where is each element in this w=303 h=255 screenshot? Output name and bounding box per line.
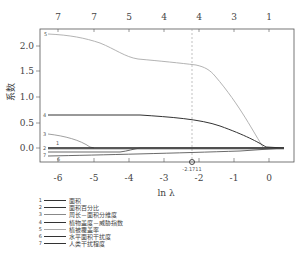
plot-frame [40, 29, 294, 162]
legend-label: 面积 [69, 197, 81, 204]
y-axis: 2.0 1.5 1.0 0.5 0.0 系数 [5, 41, 40, 153]
y-tick-label: 0.5 [20, 118, 35, 128]
legend-line-swatch [44, 214, 66, 215]
legend-number: 7 [36, 240, 42, 247]
x-tick-label: -3 [160, 173, 169, 183]
y-tick-label: 2.0 [20, 41, 35, 51]
series-lines [48, 34, 284, 156]
legend-item: 4 植物盖度－威胁指数 [36, 219, 123, 226]
x-tick-label: -5 [90, 173, 99, 183]
top-tick-label: 4 [161, 12, 167, 22]
legend-number: 5 [36, 226, 42, 233]
y-axis-label: 系数 [5, 83, 16, 101]
series-label-3: 3 [43, 131, 46, 137]
y-tick-label: 0.0 [20, 143, 35, 153]
x-tick-label: -1 [230, 173, 239, 183]
legend-number: 2 [36, 204, 42, 211]
legend-line-swatch [44, 200, 66, 201]
top-tick-label: 7 [91, 12, 97, 22]
x-axis-label: ln λ [157, 188, 175, 198]
y-tick-label: 1.0 [20, 92, 35, 102]
legend-item: 6 水平面积干扰度 [36, 233, 123, 240]
legend-label: 人类干扰程度 [69, 240, 105, 247]
legend-line-swatch [44, 243, 66, 244]
x-tick-label: -2 [195, 173, 204, 183]
legend-label: 植物盖度－威胁指数 [69, 219, 123, 226]
series-3-line [48, 134, 94, 148]
legend-number: 6 [36, 233, 42, 240]
series-label-4: 4 [43, 112, 46, 118]
legend-item: 5 植被覆盖率 [36, 226, 123, 233]
x-tick-label: 0 [266, 173, 272, 183]
top-tick-label: 5 [126, 12, 132, 22]
x-axis: -6 -5 -4 -3 -2 -1 0 ln λ [54, 158, 273, 198]
legend-number: 4 [36, 219, 42, 226]
top-tick-label: 4 [196, 12, 202, 22]
y-tick-label: 1.5 [20, 66, 35, 76]
legend-line-swatch [44, 222, 66, 223]
legend-item: 3 周长－面积分维度 [36, 211, 123, 218]
legend-line-swatch [44, 207, 66, 208]
top-tick-label: 7 [55, 12, 61, 22]
series-label-2: 2 [43, 145, 46, 151]
x-tick-label: -4 [125, 173, 134, 183]
top-tick-label: 1 [266, 12, 272, 22]
series-label-7: 7 [43, 152, 46, 158]
x-tick-label: -6 [54, 173, 63, 183]
optimal-lambda-label: -2.1711 [182, 166, 201, 172]
legend-number: 1 [36, 197, 42, 204]
legend-number: 3 [36, 211, 42, 218]
legend-line-swatch [44, 236, 66, 237]
legend-item: 1 面积 [36, 197, 123, 204]
legend-item: 2 面积百分比 [36, 204, 123, 211]
series-label-1: 1 [56, 140, 59, 146]
legend-label: 面积百分比 [69, 204, 99, 211]
series-label-5: 5 [44, 31, 47, 37]
legend-label: 植被覆盖率 [69, 226, 99, 233]
legend-label: 水平面积干扰度 [69, 233, 111, 240]
legend-line-swatch [44, 229, 66, 230]
legend: 1 面积 2 面积百分比 3 周长－面积分维度 4 植物盖度－威胁指数 5 植被… [36, 197, 123, 247]
top-tick-label: 3 [231, 12, 237, 22]
series-label-6: 6 [57, 156, 60, 162]
series-labels: 5 4 3 1 2 7 6 [43, 31, 60, 162]
legend-label: 周长－面积分维度 [69, 211, 117, 218]
legend-item: 7 人类干扰程度 [36, 240, 123, 247]
